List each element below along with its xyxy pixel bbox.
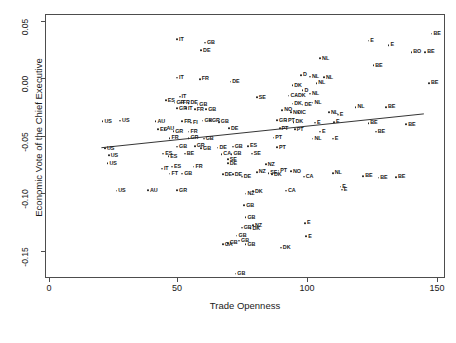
point-label: DE xyxy=(304,101,311,107)
data-point: GB xyxy=(181,171,192,177)
data-point: GB xyxy=(203,136,214,142)
x-tick-label: 0 xyxy=(29,283,69,294)
data-point: PT xyxy=(278,168,287,174)
point-label: NL xyxy=(335,170,342,176)
point-marker-icon xyxy=(328,112,330,114)
data-point: NL xyxy=(312,100,322,106)
point-label: DE xyxy=(230,160,237,166)
data-points-layer: ITGBDEBEEEBOBENLBEITFRDEDNLNLNLBEDKDITES… xyxy=(46,15,444,277)
x-tick-label: 50 xyxy=(157,283,197,294)
point-marker-icon xyxy=(323,76,325,78)
point-label: BE xyxy=(427,49,434,55)
data-point: PT xyxy=(294,127,303,133)
point-marker-icon xyxy=(169,137,171,139)
data-point: ES xyxy=(171,164,181,170)
point-marker-icon xyxy=(190,122,192,124)
data-point: E xyxy=(333,120,339,126)
point-label: GB xyxy=(247,241,255,247)
point-label: NO xyxy=(293,168,301,174)
data-point: DE xyxy=(200,48,210,54)
point-label: DK xyxy=(255,188,263,194)
point-marker-icon xyxy=(176,107,178,109)
point-marker-icon xyxy=(108,155,110,157)
point-marker-icon xyxy=(236,235,238,237)
point-marker-icon xyxy=(265,164,267,166)
point-marker-icon xyxy=(395,176,397,178)
point-marker-icon xyxy=(188,131,190,133)
point-label: BE xyxy=(388,104,395,110)
point-marker-icon xyxy=(375,131,377,133)
point-label: PT xyxy=(275,134,282,140)
data-point: DK xyxy=(280,245,290,251)
point-label: D xyxy=(303,71,307,77)
x-tick-label: 150 xyxy=(417,283,456,294)
point-label: BE xyxy=(380,174,387,180)
data-point: DE xyxy=(302,102,312,108)
point-marker-icon xyxy=(176,190,178,192)
data-point: NL xyxy=(316,81,326,87)
point-marker-icon xyxy=(165,99,167,101)
y-tick-label: 0.05 xyxy=(12,16,38,26)
x-tick-mark xyxy=(437,278,438,282)
data-point: E xyxy=(332,136,338,142)
data-point: SE xyxy=(251,151,261,157)
point-marker-icon xyxy=(333,121,335,123)
data-point: GB xyxy=(235,271,246,277)
point-marker-icon xyxy=(405,124,407,126)
data-point: ES xyxy=(168,154,178,160)
point-marker-icon xyxy=(411,51,413,53)
point-marker-icon xyxy=(227,163,229,165)
data-point: ES xyxy=(247,144,257,150)
point-marker-icon xyxy=(205,109,207,111)
point-marker-icon xyxy=(332,172,334,174)
point-marker-icon xyxy=(174,102,176,104)
point-label: US xyxy=(111,152,118,158)
point-label: NL xyxy=(358,104,365,110)
data-point: NL xyxy=(319,56,329,62)
data-point: BE xyxy=(431,31,441,37)
data-point: BE xyxy=(362,174,372,180)
y-tick-label: -0.15 xyxy=(12,246,38,256)
point-label: GB xyxy=(203,145,211,151)
point-marker-icon xyxy=(302,90,304,92)
point-label: US xyxy=(118,187,125,193)
point-label: IT xyxy=(188,105,193,111)
point-marker-icon xyxy=(251,153,253,155)
point-label: CA xyxy=(306,173,314,179)
point-label: E xyxy=(307,220,311,226)
point-label: NL xyxy=(318,80,325,86)
x-tick-mark xyxy=(307,278,308,282)
point-marker-icon xyxy=(285,190,287,192)
point-marker-icon xyxy=(243,204,245,206)
point-label: PT xyxy=(279,144,286,150)
data-point: DE xyxy=(230,79,240,85)
data-point: US xyxy=(119,118,129,124)
data-point: CA xyxy=(303,174,313,180)
data-point: PT xyxy=(279,126,288,132)
point-marker-icon xyxy=(293,121,295,123)
point-label: BE xyxy=(433,30,440,36)
point-marker-icon xyxy=(355,106,357,108)
y-tick-label-text: -0.10 xyxy=(20,189,30,208)
point-marker-icon xyxy=(176,77,178,79)
point-marker-icon xyxy=(228,128,230,130)
point-marker-icon xyxy=(385,106,387,108)
point-label: GB xyxy=(208,106,216,112)
data-point: PT xyxy=(273,135,282,141)
point-marker-icon xyxy=(176,39,178,41)
point-marker-icon xyxy=(230,81,232,83)
point-label: DE xyxy=(220,144,227,150)
y-tick-label-text: -0.05 xyxy=(20,132,30,151)
point-marker-icon xyxy=(168,156,170,158)
point-marker-icon xyxy=(193,166,195,168)
point-label: PT xyxy=(280,167,287,173)
point-marker-icon xyxy=(232,173,234,175)
x-tick-mark xyxy=(49,278,50,282)
point-marker-icon xyxy=(184,153,186,155)
point-label: BE xyxy=(408,121,415,127)
point-label: DE xyxy=(203,47,210,53)
point-label: E xyxy=(370,37,374,43)
point-marker-icon xyxy=(245,244,247,246)
point-marker-icon xyxy=(238,240,240,242)
point-marker-icon xyxy=(332,138,334,140)
